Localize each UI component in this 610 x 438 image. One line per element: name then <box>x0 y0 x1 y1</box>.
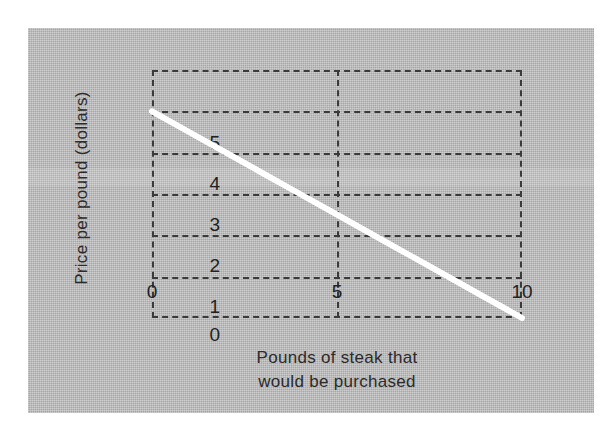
x-axis-title: Pounds of steak that would be purchased <box>152 346 522 394</box>
y-axis-title: Price per pound (dollars) <box>72 68 92 308</box>
x-tick-label-0: 0 <box>132 282 172 301</box>
x-axis-title-line1: Pounds of steak that <box>152 346 522 370</box>
x-tick-label-10: 10 <box>502 282 542 301</box>
figure-panel: Price per pound (dollars) 5 4 3 2 1 0 <box>28 28 594 413</box>
chart-page: Price per pound (dollars) 5 4 3 2 1 0 <box>0 0 610 438</box>
x-tick-label-5: 5 <box>317 282 357 301</box>
x-axis-title-line2: would be purchased <box>152 370 522 394</box>
y-tick-label-0: 0 <box>194 325 220 344</box>
